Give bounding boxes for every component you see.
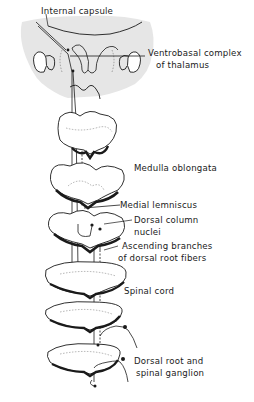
- label-ascending-branches: Ascending branches: [122, 241, 213, 251]
- label-dorsal-root: Dorsal root and: [134, 356, 203, 366]
- label-spinal-cord: Spinal cord: [124, 286, 174, 296]
- label-ventrobasal-complex-line2: of thalamus: [156, 60, 209, 70]
- label-dorsal-column-nuclei-line2: nuclei: [134, 227, 161, 237]
- label-medial-lemniscus: Medial lemniscus: [120, 200, 197, 210]
- spinal-cord-section-1: [45, 262, 126, 298]
- spinal-cord-section-3: [47, 344, 120, 376]
- label-ventrobasal-complex: Ventrobasal complex: [148, 48, 242, 58]
- label-dorsal-column-nuclei: Dorsal column: [134, 215, 199, 225]
- brainstem-section-2-medulla: [50, 163, 124, 208]
- thalamus-section: [21, 14, 154, 99]
- label-medulla-oblongata: Medulla oblongata: [134, 163, 217, 173]
- brainstem-section-3-dorsal-column-nuclei: [48, 210, 132, 252]
- brainstem-section-1: [58, 111, 117, 158]
- label-spinal-ganglion: spinal ganglion: [136, 368, 204, 378]
- label-internal-capsule: Internal capsule: [41, 6, 113, 16]
- label-ascending-branches-line2: of dorsal root fibers: [118, 253, 206, 263]
